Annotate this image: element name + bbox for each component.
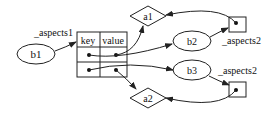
edge-box1-to-a1 [166,11,236,23]
node-b1[interactable]: b1 [17,44,55,64]
node-b1-label: b1 [31,48,42,60]
node-b2-label: b2 [187,36,197,47]
edge-box2-to-a2 [166,90,236,103]
edge-label-aspects1: _aspects1 [33,27,73,38]
node-b2[interactable]: b2 [173,31,211,51]
edge-b1-to-table [55,42,76,51]
node-b3[interactable]: b3 [173,60,211,80]
node-b3-label: b3 [187,65,197,76]
diagram: b1 _aspects1 key value a1 a2 b2 b3 [0,0,273,114]
edge-label-aspects2-bottom: _aspects2 [217,65,257,76]
edge-label-aspects2-top: _aspects2 [221,35,261,46]
edge-b3-to-box2 [209,76,229,85]
table-header-key: key [81,35,95,46]
node-a1-label: a1 [143,11,152,22]
table-header-value: value [102,35,124,46]
node-a2[interactable]: a2 [130,88,166,108]
node-a1[interactable]: a1 [130,6,166,26]
node-a2-label: a2 [143,93,152,104]
